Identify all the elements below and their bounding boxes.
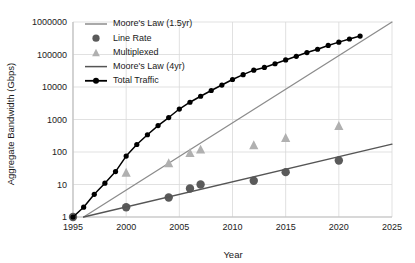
- data-point: [155, 123, 160, 128]
- data-point: [326, 43, 331, 48]
- data-point: [358, 33, 363, 38]
- data-point: [219, 82, 224, 87]
- data-point: [262, 65, 267, 70]
- legend-circle-swatch: [92, 35, 99, 42]
- x-tick-label: 2025: [382, 222, 402, 232]
- data-point: [166, 115, 171, 120]
- legend-label: Multiplexed: [113, 47, 159, 57]
- data-point: [198, 94, 203, 99]
- legend-label: Total Traffic: [113, 75, 159, 85]
- data-point: [81, 205, 86, 210]
- data-point: [272, 61, 277, 66]
- data-point: [92, 192, 97, 197]
- data-point: [145, 132, 150, 137]
- data-point: [283, 57, 288, 62]
- data-point: [70, 214, 75, 219]
- data-point: [102, 181, 107, 186]
- x-tick-label: 2015: [276, 222, 296, 232]
- y-tick-label: 100: [52, 147, 67, 157]
- y-tick-label: 1000: [47, 115, 67, 125]
- data-point: [230, 77, 235, 82]
- data-point: [347, 36, 352, 41]
- x-tick-label: 2020: [329, 222, 349, 232]
- y-tick-label: 10: [57, 180, 67, 190]
- x-axis-title: Year: [223, 249, 242, 260]
- y-tick-label: 100000: [37, 50, 67, 60]
- data-point: [177, 106, 182, 111]
- data-point: [241, 72, 246, 77]
- data-point: [124, 153, 129, 158]
- y-axis-title: Aggregate Bandwidth (Gbps): [5, 63, 16, 186]
- data-point: [304, 50, 309, 55]
- data-point: [196, 180, 204, 188]
- x-tick-label: 2010: [222, 222, 242, 232]
- legend-label: Moore's Law (1.5yr): [113, 18, 192, 28]
- data-point: [315, 47, 320, 52]
- x-tick-label: 2005: [169, 222, 189, 232]
- y-tick-label: 1000000: [32, 17, 67, 27]
- legend-label: Line Rate: [113, 33, 152, 43]
- data-point: [134, 142, 139, 147]
- y-tick-label: 1: [62, 212, 67, 222]
- data-point: [187, 100, 192, 105]
- x-tick-label: 2000: [116, 222, 136, 232]
- aggregate-bandwidth-chart: 1101001000100001000001000000 19952000200…: [0, 0, 415, 263]
- chart-canvas: 1101001000100001000001000000 19952000200…: [0, 0, 415, 263]
- data-point: [336, 40, 341, 45]
- y-tick-label: 10000: [42, 82, 67, 92]
- data-point: [251, 68, 256, 73]
- legend-circle-swatch: [93, 78, 99, 84]
- data-point: [294, 54, 299, 59]
- data-point: [113, 169, 118, 174]
- x-tick-label: 1995: [63, 222, 83, 232]
- legend-label: Moore's Law (4yr): [113, 61, 185, 71]
- data-point: [209, 88, 214, 93]
